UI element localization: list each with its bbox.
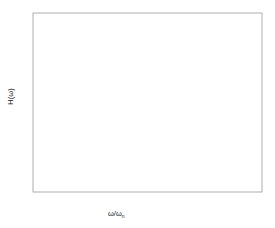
plot-canvas xyxy=(0,0,275,228)
x-axis-title-subscript: n xyxy=(122,213,125,219)
y-axis-title: H(ω) xyxy=(6,76,15,118)
y-axis-title-text: H(ω) xyxy=(6,88,15,104)
x-axis-title-text: ω/ω xyxy=(108,209,122,218)
frequency-response-chart: H(ω) ω/ωn xyxy=(0,0,275,228)
x-axis-title: ω/ωn xyxy=(108,209,125,219)
plot-frame xyxy=(33,13,262,192)
